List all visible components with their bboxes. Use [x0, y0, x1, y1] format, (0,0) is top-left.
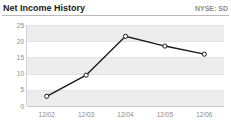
line-chart: 2520151050 12/0212/0312/0412/0512/06 — [0, 18, 231, 124]
x-axis-tick-label: 12/02 — [39, 110, 55, 119]
x-axis-tick-label: 12/04 — [117, 110, 133, 119]
y-axis-labels: 2520151050 — [0, 25, 24, 106]
x-axis-tick-label: 12/06 — [196, 110, 212, 119]
net-income-history-panel: Net Income History NYSE: SD 2520151050 1… — [0, 0, 231, 124]
y-axis-tick-label: 0 — [0, 103, 24, 110]
data-point-marker[interactable] — [84, 73, 88, 77]
ticker-symbol: NYSE: SD — [195, 0, 231, 15]
header-divider — [2, 15, 229, 16]
series-net-income — [27, 25, 224, 106]
data-point-marker[interactable] — [163, 44, 167, 48]
y-axis-tick-label: 25 — [0, 22, 24, 29]
y-axis-tick-label: 20 — [0, 38, 24, 45]
page-title: Net Income History — [0, 0, 85, 14]
data-point-marker[interactable] — [123, 34, 127, 38]
data-point-marker[interactable] — [202, 52, 206, 56]
x-axis-labels: 12/0212/0312/0412/0512/06 — [27, 108, 224, 122]
data-point-marker[interactable] — [45, 94, 49, 98]
y-axis-tick-label: 10 — [0, 70, 24, 77]
y-axis-tick-label: 15 — [0, 54, 24, 61]
x-axis-tick-label: 12/03 — [78, 110, 94, 119]
x-axis-tick-label: 12/05 — [157, 110, 173, 119]
plot-area — [27, 25, 224, 106]
y-axis-tick-label: 5 — [0, 86, 24, 93]
series-line — [47, 36, 205, 96]
gridline — [27, 106, 224, 107]
